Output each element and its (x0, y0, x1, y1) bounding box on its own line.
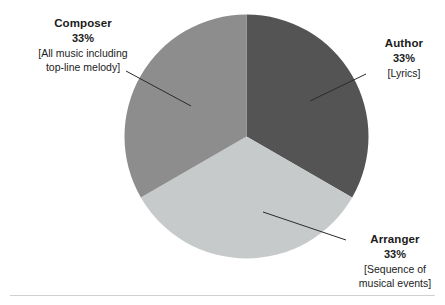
callout-arranger: Arranger 33% [Sequence of musical events… (348, 232, 442, 291)
callout-composer-desc-line1: [All music including (8, 46, 158, 61)
callout-author-name: Author (366, 36, 442, 51)
callout-composer: Composer 33% [All music including top-li… (8, 16, 158, 75)
callout-author: Author 33% [Lyrics] (366, 36, 442, 80)
callout-composer-name: Composer (8, 16, 158, 31)
callout-arranger-desc-line2: musical events] (348, 276, 442, 291)
callout-arranger-name: Arranger (348, 232, 442, 247)
pie-chart-figure: Composer 33% [All music including top-li… (0, 0, 445, 305)
pie-chart-svg (124, 14, 369, 259)
callout-composer-desc-line2: top-line melody] (8, 60, 158, 75)
callout-arranger-desc-line1: [Sequence of (348, 262, 442, 277)
pie-chart (124, 14, 369, 259)
callout-arranger-percent: 33% (348, 247, 442, 262)
callout-author-percent: 33% (366, 51, 442, 66)
footer-divider (10, 295, 435, 296)
callout-author-desc-line1: [Lyrics] (366, 66, 442, 81)
callout-composer-percent: 33% (8, 31, 158, 46)
